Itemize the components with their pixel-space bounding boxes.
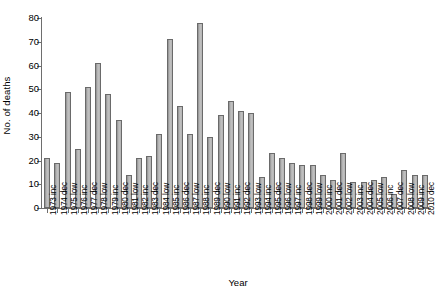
- x-axis-tick-label: 2000 inc: [326, 185, 334, 215]
- x-axis-tick-label: 1986 dec: [183, 182, 191, 215]
- x-axis-tick-label: 2005 low: [377, 183, 385, 215]
- x-axis-tick-label: 1988 inc: [203, 185, 211, 215]
- plot-area: 01020304050607080: [42, 18, 430, 208]
- y-axis-tick-label: 50: [28, 83, 39, 94]
- x-axis-tick-label: 1987 low: [193, 183, 201, 215]
- x-axis-tick-label: 1984 low: [163, 183, 171, 215]
- x-axis-tick-label: 1975 low: [71, 183, 79, 215]
- bar: [197, 23, 203, 208]
- x-axis-tick-label: 1992 dec: [244, 182, 252, 215]
- x-axis-tick-label: 1993 low: [255, 183, 263, 215]
- x-axis-tick-label: 1977 dec: [91, 182, 99, 215]
- x-axis-tick-label: 1981 low: [132, 183, 140, 215]
- x-axis-tick-label: 2008 low: [408, 183, 416, 215]
- y-axis-tick-label: 0: [34, 202, 39, 213]
- x-axis-tick-label: 1998 dec: [306, 182, 314, 215]
- x-axis-tick-label: 1997 inc: [295, 185, 303, 215]
- x-axis-tick-label: 1991 inc: [234, 185, 242, 215]
- y-axis-tick-label: 70: [28, 36, 39, 47]
- y-axis-tick-label: 60: [28, 60, 39, 71]
- x-axis-tick-label: 2006 inc: [387, 185, 395, 215]
- x-axis-tick-label: 1983 dec: [152, 182, 160, 215]
- x-axis-tick-label: 1989 dec: [214, 182, 222, 215]
- x-axis-title-label: Year: [200, 277, 247, 288]
- x-axis-tick-label: 1976 inc: [81, 185, 89, 215]
- x-axis-tick-label: 1973 inc: [50, 185, 58, 215]
- x-axis-tick-label: 1979 inc: [112, 185, 120, 215]
- x-axis-tick-label: 1974 dec: [61, 182, 69, 215]
- x-axis-tick-label: 1996 low: [285, 183, 293, 215]
- x-axis-tick-label: 2007 dec: [397, 182, 405, 215]
- x-axis-tick-label: 2002 low: [346, 183, 354, 215]
- y-axis-title-label: No. of deaths: [2, 76, 13, 134]
- x-axis-tick-label: 1978 low: [101, 183, 109, 215]
- y-axis-tick-label: 20: [28, 155, 39, 166]
- x-axis-tick-label: 1994 inc: [265, 185, 273, 215]
- x-axis-tick-label: 1980 dec: [122, 182, 130, 215]
- y-axis-tick-label: 40: [28, 107, 39, 118]
- x-axis-tick-label: 2009 inc: [418, 185, 426, 215]
- x-axis-tick-label: 1995 dec: [275, 182, 283, 215]
- x-axis-tick-label: 1985 inc: [173, 185, 181, 215]
- x-axis-tick-label: 2004 dec: [367, 182, 375, 215]
- x-axis-tick-label: 2003 inc: [357, 185, 365, 215]
- x-axis-tick-label: 1982 inc: [142, 185, 150, 215]
- y-axis-tick-label: 80: [28, 12, 39, 23]
- y-axis-tick-label: 10: [28, 178, 39, 189]
- y-axis-title: No. of deaths: [0, 0, 14, 210]
- y-axis-tick-label: 30: [28, 131, 39, 142]
- x-axis-tick-label: 1999 low: [316, 183, 324, 215]
- x-axis-title: Year: [0, 277, 448, 288]
- x-axis-tick-label: 2010 dec: [428, 182, 436, 215]
- x-axis-tick-mark: [47, 209, 48, 213]
- bar-chart: No. of deaths 01020304050607080 1973 inc…: [0, 0, 448, 295]
- x-axis-tick-label: 2001 dec: [336, 182, 344, 215]
- x-axis-tick-label: 1990 low: [224, 183, 232, 215]
